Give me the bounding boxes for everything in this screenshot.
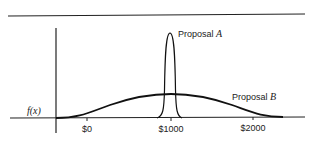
distribution-diagram: Proposal A Proposal B f(x) $0 $1000 $200…	[0, 0, 320, 151]
proposal-b-label: Proposal B	[232, 91, 276, 102]
tick-label-2000: $2000	[240, 123, 265, 133]
proposal-a-label: Proposal A	[178, 28, 223, 39]
tick-label-0: $0	[82, 124, 92, 134]
top-rule	[8, 14, 305, 16]
proposal-a-curve	[157, 33, 182, 118]
y-axis-label: f(x)	[27, 105, 42, 117]
tick-label-1000: $1000	[158, 124, 183, 134]
